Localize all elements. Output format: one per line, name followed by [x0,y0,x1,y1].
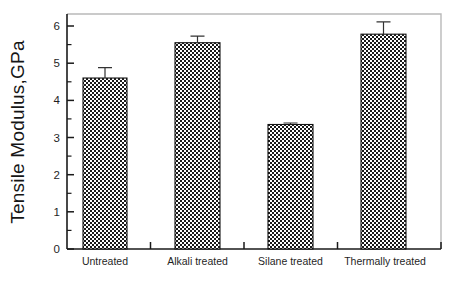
y-tick-label-4: 4 [54,94,61,106]
y-tick-label-5: 5 [54,57,60,69]
x-tick-label-alkali-treated: Alkali treated [167,255,228,267]
chart-container: 0 1 2 3 4 5 6 Tensile Modulus,GPa [0,0,455,283]
y-tick-label-2: 2 [54,169,60,181]
y-tick-label-3: 3 [54,132,60,144]
bar-untreated[interactable] [83,68,127,249]
y-tick-label-6: 6 [54,20,60,32]
bar-alkali-treated[interactable] [175,36,220,249]
y-axis-title: Tensile Modulus,GPa [7,40,28,224]
y-tick-label-1: 1 [54,206,60,218]
x-tick-label-untreated: Untreated [82,255,128,267]
x-tick-label-thermally-treated: Thermally treated [344,255,426,267]
bar-thermally-treated[interactable] [361,22,406,249]
bar-silane-treated[interactable] [268,123,313,249]
x-tick-label-silane-treated: Silane treated [258,255,323,267]
bar-chart: 0 1 2 3 4 5 6 Tensile Modulus,GPa [0,0,455,283]
y-tick-label-0: 0 [54,243,60,255]
